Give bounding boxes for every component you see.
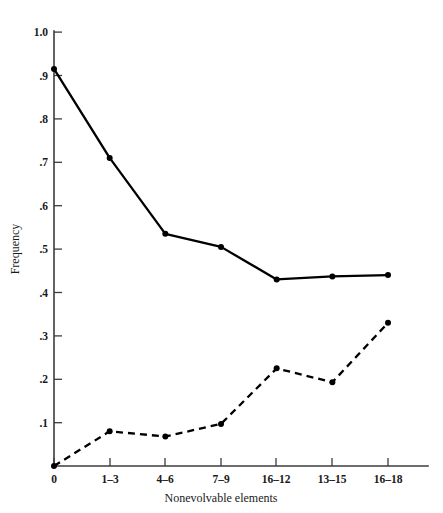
chart-figure: 1.0 .9 .8 .7 .6 .5 .4 .3 .2 .1 0 1–3 xyxy=(0,0,443,513)
x-tick-label: 0 xyxy=(51,473,57,485)
data-point-marker xyxy=(274,276,280,282)
data-point-marker xyxy=(162,231,168,237)
y-tick-label: .4 xyxy=(39,287,48,299)
y-tick-label: .5 xyxy=(39,243,48,255)
chart-background xyxy=(0,0,443,513)
x-tick-label: 16–18 xyxy=(374,473,403,485)
y-tick-label: 1.0 xyxy=(34,26,49,38)
data-point-marker xyxy=(329,379,335,385)
y-axis-title: Frequency xyxy=(8,224,22,275)
y-tick-label: .7 xyxy=(39,156,48,168)
line-chart-svg: 1.0 .9 .8 .7 .6 .5 .4 .3 .2 .1 0 1–3 xyxy=(0,0,443,513)
data-point-marker xyxy=(274,365,280,371)
x-axis-title: Nonevolvable elements xyxy=(165,491,278,505)
data-point-marker xyxy=(385,272,391,278)
data-point-marker xyxy=(51,463,57,469)
data-point-marker xyxy=(218,244,224,250)
y-tick-label: .3 xyxy=(39,330,48,342)
data-point-marker xyxy=(385,320,391,326)
x-tick-label: 16–12 xyxy=(262,473,291,485)
x-tick-label: 13–15 xyxy=(318,473,347,485)
y-tick-label: .6 xyxy=(39,200,48,212)
data-point-marker xyxy=(218,421,224,427)
y-tick-label: .1 xyxy=(39,417,48,429)
y-tick-label: .8 xyxy=(39,113,48,125)
data-point-marker xyxy=(51,66,57,72)
data-point-marker xyxy=(162,433,168,439)
data-point-marker xyxy=(107,155,113,161)
data-point-marker xyxy=(329,273,335,279)
y-tick-label: .9 xyxy=(39,70,48,82)
y-tick-label: .2 xyxy=(39,373,48,385)
x-tick-label: 1–3 xyxy=(101,473,119,485)
data-point-marker xyxy=(107,428,113,434)
x-tick-label: 4–6 xyxy=(156,473,174,485)
x-tick-label: 7–9 xyxy=(212,473,230,485)
